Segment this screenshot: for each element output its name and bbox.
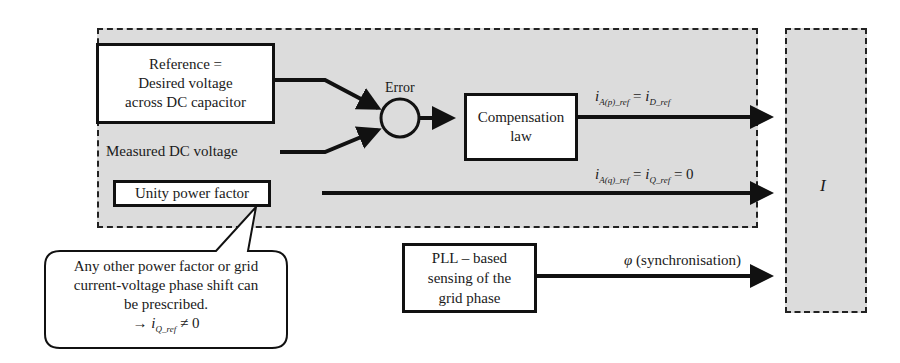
callout-text: Any other power factor or grid current-v… (47, 257, 285, 339)
callout-line-3: be prescribed. (47, 295, 285, 314)
reference-arrow (274, 80, 378, 108)
pll-line-1: PLL – based (432, 248, 507, 268)
pll-block: PLL – based sensing of the grid phase (402, 243, 537, 313)
compensation-line-2: law (510, 127, 532, 146)
active-current-ref-label: iA(p)_ref = iD_ref (595, 88, 670, 107)
pll-line-2: sensing of the (428, 268, 511, 288)
callout-line-1: Any other power factor or grid (47, 257, 285, 276)
callout-formula: → iQ_ref ≠ 0 (47, 314, 285, 339)
reference-block: Reference = Desired voltage across DC ca… (96, 43, 275, 124)
reference-line-3: across DC capacitor (125, 93, 246, 112)
measured-dc-voltage-label: Measured DC voltage (106, 143, 238, 160)
error-label: Error (385, 80, 415, 96)
callout-line-2: current-voltage phase shift can (47, 276, 285, 295)
summing-junction (381, 99, 419, 137)
reference-line-1: Reference = (149, 55, 222, 74)
reactive-current-ref-label: iA(q)_ref = iQ_ref = 0 (595, 166, 694, 185)
reference-line-2: Desired voltage (138, 74, 233, 93)
measured-arrow (280, 130, 378, 152)
compensation-line-1: Compensation (478, 108, 565, 127)
compensation-law-block: Compensation law (464, 93, 578, 161)
unity-power-factor-block: Unity power factor (113, 180, 271, 207)
phase-sync-label: φ (synchronisation) (624, 252, 741, 269)
unity-pf-label: Unity power factor (135, 184, 249, 203)
pll-line-3: grid phase (438, 288, 500, 308)
